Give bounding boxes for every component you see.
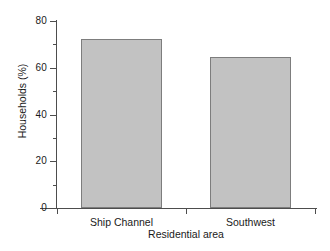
y-axis-tick-major (50, 21, 57, 22)
y-axis-tick-minor (53, 138, 57, 139)
x-axis-category-label: Ship Channel (52, 216, 192, 228)
y-axis-tick-minor (53, 44, 57, 45)
bar (81, 39, 162, 208)
bar-chart: Households (%) 020406080 Ship ChannelSou… (0, 0, 330, 251)
y-axis-tick-major (50, 68, 57, 69)
y-axis-tick-minor (53, 185, 57, 186)
x-axis-tick (57, 208, 58, 214)
y-axis-tick-label: 40 (7, 110, 47, 120)
y-axis-title: Households (%) (16, 31, 28, 171)
bar (210, 57, 291, 208)
x-axis-line (40, 208, 317, 209)
y-axis-tick-label: 60 (7, 63, 47, 73)
x-axis-tick (186, 208, 187, 214)
y-axis-tick-label: 0 (7, 203, 47, 213)
y-axis-tick-label: 80 (7, 16, 47, 26)
x-axis-tick (315, 208, 316, 214)
x-axis-title: Residential area (57, 228, 315, 240)
y-axis-tick-minor (53, 91, 57, 92)
y-axis-tick-major (50, 115, 57, 116)
x-axis-category-label: Southwest (181, 216, 321, 228)
y-axis-tick-major (50, 208, 57, 209)
y-axis-tick-major (50, 161, 57, 162)
y-axis-tick-label: 20 (7, 156, 47, 166)
